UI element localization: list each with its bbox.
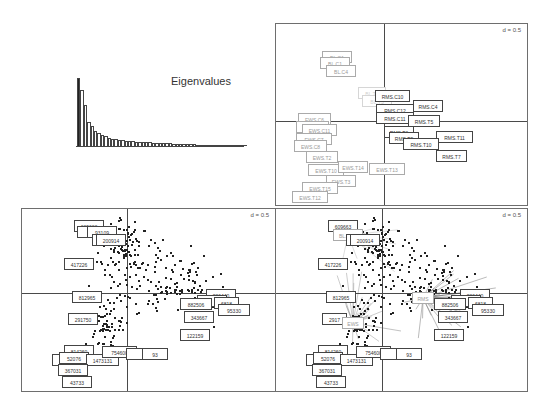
scale-label: d = 0.5 <box>502 212 521 218</box>
sample-point <box>450 274 452 276</box>
sample-point <box>154 242 156 244</box>
sample-point <box>424 278 426 280</box>
sample-point <box>409 254 411 256</box>
sample-point <box>131 286 133 288</box>
sample-point <box>367 281 369 283</box>
sample-point <box>170 292 172 294</box>
sample-point <box>114 329 116 331</box>
sample-point <box>379 253 381 255</box>
sample-point <box>431 309 433 311</box>
sample-point <box>358 336 360 338</box>
sample-point <box>174 283 176 285</box>
sample-point <box>374 219 376 221</box>
sample-point <box>120 321 122 323</box>
sample-point <box>176 282 178 284</box>
sample-point <box>106 326 108 328</box>
sample-point <box>434 260 436 262</box>
sample-point <box>404 281 406 283</box>
point-label: EWS.T13 <box>369 163 405 175</box>
sample-point <box>98 320 100 322</box>
sample-point <box>393 267 395 269</box>
sample-point <box>419 267 421 269</box>
sample-point <box>152 303 154 305</box>
sample-point <box>416 239 418 241</box>
sample-point <box>372 252 374 254</box>
sample-point <box>347 333 349 335</box>
sample-point <box>107 264 109 266</box>
sample-point <box>155 254 157 256</box>
sample-point <box>97 252 99 254</box>
sample-point <box>119 283 121 285</box>
point-label: 52076 <box>59 352 89 364</box>
sample-point <box>374 248 376 250</box>
point-label: 95330 <box>472 304 504 316</box>
sample-point <box>118 220 120 222</box>
sample-point <box>378 274 380 276</box>
point-label: 93 <box>142 348 168 360</box>
sample-point <box>111 276 113 278</box>
sample-point <box>124 274 126 276</box>
sample-point <box>148 245 150 247</box>
point-label: EWS <box>342 317 364 329</box>
sample-point <box>199 285 201 287</box>
sample-point <box>119 294 121 296</box>
sample-point <box>390 240 392 242</box>
sample-point <box>125 253 127 255</box>
sample-point <box>380 240 382 242</box>
sample-point <box>121 317 123 319</box>
sample-point <box>120 300 122 302</box>
point-label: RMS.T10 <box>403 138 439 150</box>
sample-point <box>109 330 111 332</box>
point-label: RMS.C10 <box>375 90 410 102</box>
sample-point <box>147 264 149 266</box>
sample-point <box>402 290 404 292</box>
point-label: 52076 <box>313 352 343 364</box>
sample-point <box>118 261 120 263</box>
sample-point <box>92 336 94 338</box>
sample-point <box>366 261 368 263</box>
sample-point <box>434 274 436 276</box>
sample-point <box>399 269 401 271</box>
sample-point <box>448 292 450 294</box>
sample-point <box>183 278 185 280</box>
sample-point <box>127 233 129 235</box>
sample-point <box>459 280 461 282</box>
point-label: 43733 <box>316 376 346 388</box>
sample-point <box>136 288 138 290</box>
sample-point <box>139 267 141 269</box>
sample-point <box>159 250 161 252</box>
sample-point <box>104 315 106 317</box>
point-label: 812965 <box>326 291 356 303</box>
sample-point <box>428 289 430 291</box>
sample-point <box>123 257 125 259</box>
sample-point <box>160 259 162 261</box>
sample-point <box>442 279 444 281</box>
sample-point <box>383 263 385 265</box>
sample-point <box>135 303 137 305</box>
sample-point <box>116 297 118 299</box>
sample-point <box>409 307 411 309</box>
point-label: 343667 <box>438 311 468 323</box>
sample-point <box>143 230 145 232</box>
sample-point <box>357 305 359 307</box>
sample-point <box>352 342 354 344</box>
sample-point <box>410 310 412 312</box>
sample-point <box>397 276 399 278</box>
sample-point <box>367 249 369 251</box>
sample-point <box>385 233 387 235</box>
sample-point <box>220 273 222 275</box>
sample-point <box>386 241 388 243</box>
sample-point <box>117 285 119 287</box>
sample-point <box>413 250 415 252</box>
point-label: RMS.C4 <box>413 100 443 112</box>
point-label: EWS.T14 <box>338 161 368 173</box>
sample-point <box>150 281 152 283</box>
sample-point <box>109 313 111 315</box>
sample-point <box>372 269 374 271</box>
sample-point <box>466 276 468 278</box>
point-label: RMS.T7 <box>436 150 467 162</box>
sample-point <box>361 299 363 301</box>
sample-point <box>391 267 393 269</box>
sample-point <box>363 302 365 304</box>
point-label: 93 <box>396 348 422 360</box>
